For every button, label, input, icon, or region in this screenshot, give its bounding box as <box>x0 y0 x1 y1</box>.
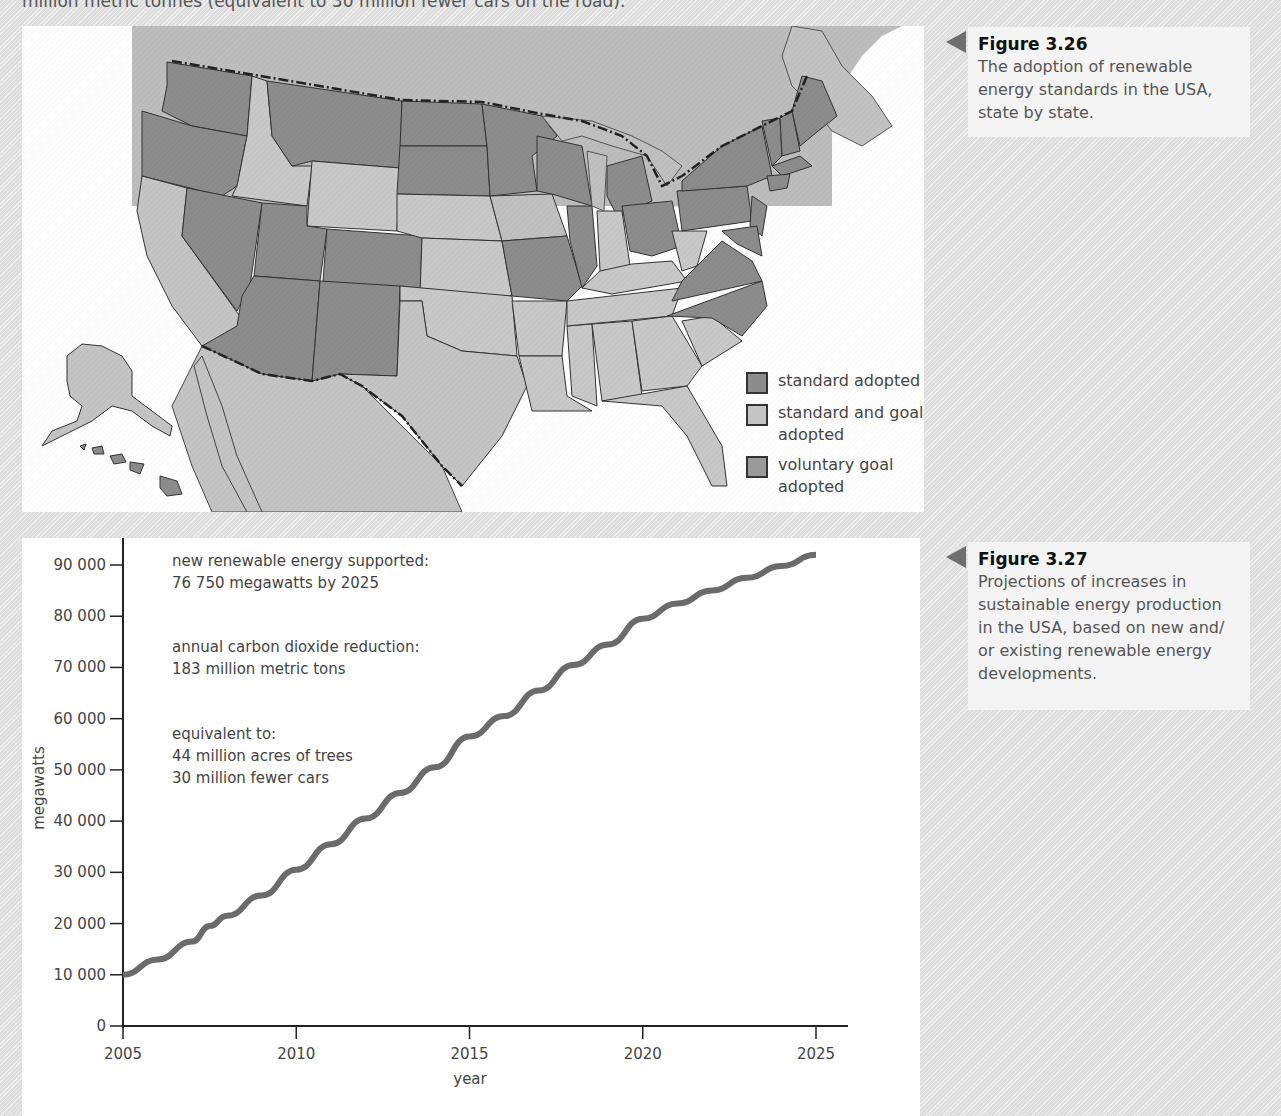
y-tick-label: 90 000 <box>54 556 107 574</box>
legend-label: standard adopted <box>778 370 920 392</box>
figure-caption-text: Projections of increases in sustainable … <box>978 570 1240 685</box>
figure-3-27-caption: Figure 3.27 Projections of increases in … <box>968 542 1250 710</box>
legend-swatch-standard-adopted <box>746 372 768 394</box>
x-tick-label: 2025 <box>797 1045 835 1063</box>
y-tick-label: 10 000 <box>54 966 107 984</box>
y-tick-label: 20 000 <box>54 915 107 933</box>
y-tick-label: 60 000 <box>54 710 107 728</box>
annotation-line: new renewable energy supported: <box>172 550 429 572</box>
legend-item-voluntary-goal: voluntary goal adopted <box>746 454 924 498</box>
caption-pointer-icon <box>946 546 966 568</box>
map-figure-panel: standard adopted standard and goal adopt… <box>22 26 924 512</box>
annotation-line: 76 750 megawatts by 2025 <box>172 572 429 594</box>
y-tick-label: 80 000 <box>54 607 107 625</box>
legend-swatch-standard-and-goal <box>746 404 768 426</box>
y-tick-label: 70 000 <box>54 658 107 676</box>
y-tick-label: 40 000 <box>54 812 107 830</box>
x-tick-label: 2005 <box>104 1045 142 1063</box>
legend-swatch-voluntary-goal <box>746 456 768 478</box>
figure-caption-text: The adoption of renewable energy standar… <box>978 55 1240 124</box>
map-legend: standard adopted standard and goal adopt… <box>746 370 924 506</box>
annotation-line: 30 million fewer cars <box>172 767 353 789</box>
megawatts-line-chart: 010 00020 00030 00040 00050 00060 00070 … <box>22 538 920 1116</box>
legend-label: standard and goal adopted <box>778 402 924 446</box>
page-top-text: million metric tonnes (equivalent to 30 … <box>22 0 625 11</box>
y-tick-label: 0 <box>96 1017 106 1035</box>
x-tick-label: 2015 <box>450 1045 488 1063</box>
annotation-line: equivalent to: <box>172 723 353 745</box>
annotation-new-energy: new renewable energy supported: 76 750 m… <box>172 550 429 594</box>
annotation-co2-reduction: annual carbon dioxide reduction: 183 mil… <box>172 636 420 680</box>
x-axis-label: year <box>453 1070 487 1088</box>
figure-title: Figure 3.26 <box>978 33 1240 55</box>
x-tick-label: 2020 <box>624 1045 662 1063</box>
y-axis-label: megawatts <box>30 746 48 830</box>
legend-item-standard-and-goal: standard and goal adopted <box>746 402 924 446</box>
caption-pointer-icon <box>946 31 966 53</box>
figure-3-26-caption: Figure 3.26 The adoption of renewable en… <box>968 27 1250 137</box>
x-axis-ticks: 20052010201520202025 <box>104 1026 835 1063</box>
legend-label: voluntary goal adopted <box>778 454 924 498</box>
annotation-line: 183 million metric tons <box>172 658 420 680</box>
x-tick-label: 2010 <box>277 1045 315 1063</box>
annotation-line: annual carbon dioxide reduction: <box>172 636 420 658</box>
chart-figure-panel: 010 00020 00030 00040 00050 00060 00070 … <box>22 538 920 1116</box>
legend-item-standard-adopted: standard adopted <box>746 370 924 394</box>
y-tick-label: 30 000 <box>54 863 107 881</box>
figure-title: Figure 3.27 <box>978 548 1240 570</box>
annotation-equivalent: equivalent to: 44 million acres of trees… <box>172 723 353 789</box>
y-axis-ticks: 010 00020 00030 00040 00050 00060 00070 … <box>54 556 124 1035</box>
annotation-line: 44 million acres of trees <box>172 745 353 767</box>
y-tick-label: 50 000 <box>54 761 107 779</box>
